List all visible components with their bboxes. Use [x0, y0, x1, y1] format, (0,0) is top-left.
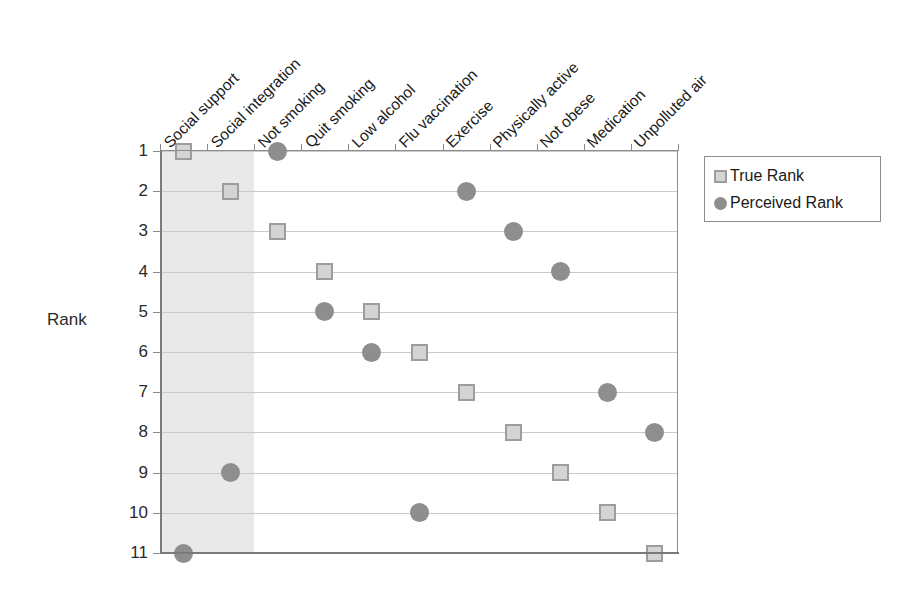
legend-label: Perceived Rank	[730, 195, 843, 211]
data-point-square	[599, 504, 616, 521]
gridline	[160, 312, 678, 313]
category-label: Physically active	[490, 59, 581, 150]
tick-value: 1	[108, 142, 148, 159]
legend-circle-marker-icon	[714, 197, 727, 210]
y-axis-tick	[153, 432, 160, 433]
axis-bottom	[160, 552, 679, 554]
y-axis-tick-label: 3	[104, 222, 148, 239]
y-axis-tick	[153, 352, 160, 353]
plot-area	[160, 151, 678, 553]
x-axis-tick	[490, 144, 491, 151]
y-axis-tick-label: 5	[104, 303, 148, 320]
legend-square-marker-icon	[714, 170, 727, 183]
x-axis-tick	[537, 144, 538, 151]
y-axis-tick	[153, 231, 160, 232]
data-point-circle	[504, 222, 523, 241]
y-axis-tick-label: 4	[104, 263, 148, 280]
legend-label: True Rank	[730, 168, 804, 184]
legend-item-true-rank: True Rank	[714, 166, 804, 186]
data-point-square	[552, 464, 569, 481]
data-point-square	[316, 263, 333, 280]
tick-value: 10	[108, 504, 148, 521]
tick-value: 5	[108, 303, 148, 320]
legend-item-perceived-rank: Perceived Rank	[714, 193, 843, 213]
y-axis-tick	[153, 513, 160, 514]
tick-value: 6	[108, 343, 148, 360]
y-axis-tick-label: 8	[104, 423, 148, 440]
tick-value: 8	[108, 423, 148, 440]
data-point-square	[411, 344, 428, 361]
category-label: Unpolluted air	[631, 72, 710, 151]
data-point-square	[458, 384, 475, 401]
x-axis-tick	[584, 144, 585, 151]
y-axis-tick	[153, 312, 160, 313]
data-point-circle	[315, 302, 334, 321]
tick-value: 9	[108, 464, 148, 481]
gridline	[160, 432, 678, 433]
y-axis-title: Rank	[47, 310, 87, 330]
y-axis-tick	[153, 392, 160, 393]
data-point-square	[269, 223, 286, 240]
gridline	[160, 231, 678, 232]
tick-value: 3	[108, 222, 148, 239]
tick-value: 7	[108, 383, 148, 400]
axis-left	[160, 150, 162, 554]
data-point-circle	[410, 503, 429, 522]
y-axis-tick	[153, 151, 160, 152]
tick-value: 4	[108, 263, 148, 280]
tick-value: 2	[108, 182, 148, 199]
data-point-square	[222, 183, 239, 200]
chart-legend: True Rank Perceived Rank	[704, 156, 881, 222]
axis-top	[160, 150, 679, 151]
gridline	[160, 272, 678, 273]
x-axis-tick	[443, 144, 444, 151]
x-axis-tick	[348, 144, 349, 151]
y-axis-tick-label: 7	[104, 383, 148, 400]
gridline	[160, 151, 678, 152]
y-axis-tick-label: 11	[104, 544, 148, 561]
y-axis-tick-label: 1	[104, 142, 148, 159]
y-axis-tick-label: 10	[104, 504, 148, 521]
y-axis-tick	[153, 272, 160, 273]
x-axis-tick	[678, 144, 679, 151]
y-axis-tick	[153, 191, 160, 192]
data-point-circle	[551, 262, 570, 281]
data-point-circle	[457, 182, 476, 201]
y-axis-tick-label: 2	[104, 182, 148, 199]
category-label: Flu vaccination	[396, 66, 480, 150]
y-axis-tick-label: 6	[104, 343, 148, 360]
axis-right	[677, 150, 678, 554]
x-axis-tick	[207, 144, 208, 151]
y-axis-tick	[153, 473, 160, 474]
y-axis-tick	[153, 553, 160, 554]
data-point-circle	[598, 383, 617, 402]
data-point-square	[505, 424, 522, 441]
rank-comparison-chart: 1234567891011 Social supportSocial integ…	[0, 0, 915, 599]
data-point-circle	[645, 423, 664, 442]
x-axis-tick	[254, 144, 255, 151]
x-axis-tick	[395, 144, 396, 151]
tick-value: 11	[108, 544, 148, 561]
y-axis-tick-label: 9	[104, 464, 148, 481]
data-point-circle	[362, 343, 381, 362]
x-axis-tick	[160, 144, 161, 151]
x-axis-tick	[631, 144, 632, 151]
data-point-square	[363, 303, 380, 320]
x-axis-tick	[301, 144, 302, 151]
